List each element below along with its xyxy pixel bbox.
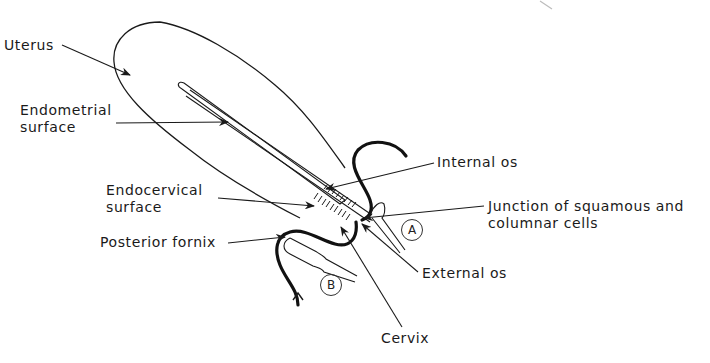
label-uterus: Uterus bbox=[4, 37, 54, 54]
instrument-b-marker: B bbox=[320, 274, 342, 296]
posterior-fornix-pointer bbox=[228, 237, 285, 243]
endocervical-canal-line-2 bbox=[190, 90, 372, 215]
cervix-pointer bbox=[341, 227, 402, 327]
junction-pointer bbox=[364, 206, 484, 218]
label-junction-line-1: Junction of squamous and bbox=[488, 198, 684, 215]
internal-os-pointer bbox=[326, 163, 434, 189]
label-posterior-fornix: Posterior fornix bbox=[100, 234, 216, 251]
label-endocervical-line-1: Endocervical bbox=[106, 182, 203, 199]
label-endocervical-line-2: surface bbox=[106, 199, 203, 216]
endometrial-pointer bbox=[116, 122, 228, 123]
label-endometrial-line-1: Endometrial bbox=[20, 102, 112, 119]
label-endometrial-surface: Endometrial surface bbox=[20, 102, 112, 136]
label-junction: Junction of squamous and columnar cells bbox=[488, 198, 684, 232]
uterine-cavity bbox=[178, 82, 345, 204]
label-endocervical-surface: Endocervical surface bbox=[106, 182, 203, 216]
label-endometrial-line-2: surface bbox=[20, 119, 112, 136]
label-external-os: External os bbox=[422, 265, 507, 282]
instrument-a-marker: A bbox=[401, 219, 423, 241]
uterus-pointer bbox=[62, 45, 130, 75]
posterior-vaginal-wall bbox=[277, 222, 356, 305]
stray-mark bbox=[540, 1, 552, 9]
label-junction-line-2: columnar cells bbox=[488, 215, 684, 232]
label-cervix: Cervix bbox=[381, 330, 429, 347]
label-internal-os: Internal os bbox=[437, 154, 518, 171]
